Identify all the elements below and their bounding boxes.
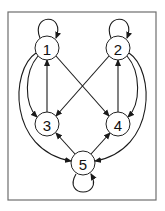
node-label: 4 [114,117,122,134]
edge-arrow-1-to-3 [27,56,38,117]
node-5: 5 [71,151,95,175]
edge-arrow-1-to-5 [19,53,71,161]
node-label: 2 [114,41,122,58]
node-3: 3 [35,112,59,136]
edge-arrow-2-to-4 [127,56,138,117]
node-label: 1 [43,41,51,58]
node-4: 4 [106,112,130,136]
edge-arrow-2-to-5 [95,53,146,161]
edge-arrow-5-to-3 [56,133,75,154]
self-loop-arrow-1 [38,19,58,38]
edge-arrow-5-to-4 [91,133,110,154]
self-loop-arrow-2 [109,19,129,38]
node-2: 2 [106,36,130,60]
node-label: 5 [79,156,87,173]
node-label: 3 [43,117,51,134]
node-1: 1 [35,36,59,60]
state-transition-diagram: 12345 [0,0,165,211]
self-loop-arrow-5 [73,174,93,192]
